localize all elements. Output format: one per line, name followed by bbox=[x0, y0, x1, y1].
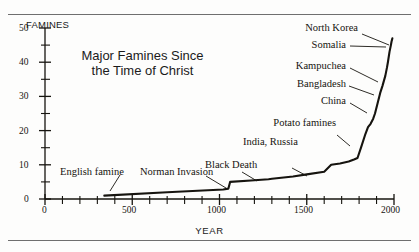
leader-bangladesh bbox=[349, 86, 374, 95]
famine-chart-figure: FAMINES YEAR Major Famines Since the Tim… bbox=[0, 0, 419, 252]
annotation-somalia: Somalia bbox=[254, 40, 346, 51]
leader-potato-famines bbox=[337, 135, 350, 146]
leader-norman-invasion bbox=[206, 176, 226, 188]
x-tick-label-2000: 2000 bbox=[381, 206, 400, 216]
y-tick-label-20: 20 bbox=[19, 127, 29, 137]
y-tick-label-10: 10 bbox=[19, 161, 29, 171]
x-tick-label-0: 0 bbox=[42, 206, 47, 216]
annotation-black-death: Black Death bbox=[205, 160, 257, 171]
leader-china bbox=[350, 103, 367, 113]
annotation-india-russia: India, Russia bbox=[243, 137, 298, 148]
x-tick-label-1500: 1500 bbox=[294, 206, 313, 216]
annotation-norman-invasion: Norman Invasion bbox=[140, 167, 213, 178]
annotation-bangladesh: Bangladesh bbox=[246, 79, 346, 90]
annotation-china: China bbox=[256, 96, 346, 107]
x-tick-label-500: 500 bbox=[122, 206, 136, 216]
y-tick-label-0: 0 bbox=[24, 195, 29, 205]
leader-somalia bbox=[350, 46, 386, 47]
leader-north-korea bbox=[362, 34, 389, 45]
y-tick-label-40: 40 bbox=[19, 58, 29, 68]
y-tick-label-50: 50 bbox=[19, 24, 29, 34]
x-axis-title: YEAR bbox=[0, 226, 419, 236]
leader-kampuchea bbox=[350, 68, 378, 82]
x-tick-label-1000: 1000 bbox=[207, 206, 226, 216]
annotation-north-korea: North Korea bbox=[248, 23, 358, 34]
y-axis-title: FAMINES bbox=[26, 20, 69, 30]
annotation-english-famine: English famine bbox=[60, 167, 124, 178]
y-tick-label-30: 30 bbox=[19, 92, 29, 102]
annotation-potato-famines: Potato famines bbox=[232, 118, 336, 129]
annotation-kampuchea: Kampuchea bbox=[240, 61, 346, 72]
chart-title-line-1: Major Famines Since bbox=[81, 48, 203, 63]
